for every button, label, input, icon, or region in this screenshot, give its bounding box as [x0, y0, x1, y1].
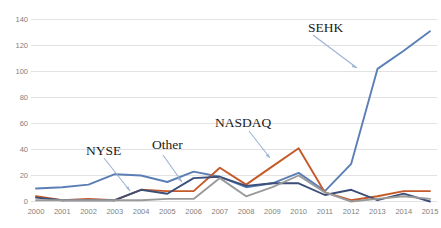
x-tick-label: 2014: [391, 207, 417, 216]
y-tick-label: 100: [4, 67, 28, 76]
y-tick-label: 20: [4, 171, 28, 180]
y-tick-label: 40: [4, 145, 28, 154]
x-tick-label: 2004: [128, 207, 154, 216]
x-tick-label: 2009: [259, 207, 285, 216]
y-tick-label: 80: [4, 93, 28, 102]
x-tick-label: 2006: [181, 207, 207, 216]
nasdaq-arrow: [249, 131, 270, 158]
series-line-sehk: [36, 31, 430, 191]
x-tick-label: 2005: [154, 207, 180, 216]
series-line-nyse: [36, 177, 430, 202]
x-tick-label: 2010: [286, 207, 312, 216]
x-tick-label: 2007: [207, 207, 233, 216]
y-tick-label: 60: [4, 119, 28, 128]
annotation-nyse: NYSE: [86, 143, 121, 159]
annotation-other: Other: [152, 137, 183, 153]
x-tick-label: 2008: [233, 207, 259, 216]
x-tick-label: 2002: [76, 207, 102, 216]
chart-plot-area: [0, 0, 441, 228]
annotation-arrows-group: [104, 35, 357, 191]
line-chart: 020406080100120140 200020012002200320042…: [0, 0, 441, 228]
x-tick-label: 2001: [49, 207, 75, 216]
annotation-nasdaq: NASDAQ: [215, 115, 271, 131]
other-arrow: [163, 155, 182, 182]
annotation-sehk: SEHK: [308, 20, 343, 36]
x-tick-label: 2013: [364, 207, 390, 216]
gridlines-group: [31, 20, 437, 202]
y-tick-label: 0: [4, 197, 28, 206]
y-tick-label: 120: [4, 41, 28, 50]
x-tick-label: 2000: [23, 207, 49, 216]
sehk-arrow: [313, 35, 357, 68]
x-tick-label: 2003: [102, 207, 128, 216]
x-tick-label: 2015: [417, 207, 441, 216]
x-tick-label: 2012: [338, 207, 364, 216]
y-tick-label: 140: [4, 15, 28, 24]
x-tick-label: 2011: [312, 207, 338, 216]
